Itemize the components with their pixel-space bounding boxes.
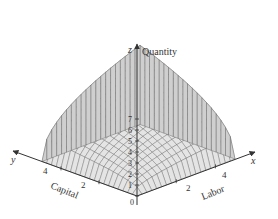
- x-tick-4: 4: [222, 170, 227, 180]
- x-tick-2: 2: [186, 183, 191, 193]
- z-tick-2: 2: [128, 170, 132, 179]
- surface-plot: 01234567 z Quantity y x 4 2 2 4 Capital …: [0, 0, 278, 219]
- y-tick-4: 4: [43, 166, 48, 176]
- z-tick-1: 1: [128, 181, 132, 190]
- surface-mesh: [42, 45, 235, 196]
- z-tick-0: 0: [130, 198, 134, 207]
- z-tick-4: 4: [128, 148, 132, 157]
- x-axis-letter: x: [250, 155, 256, 166]
- y-axis-label: Capital: [49, 180, 80, 201]
- y-axis-letter: y: [10, 154, 16, 165]
- z-tick-3: 3: [128, 159, 132, 168]
- z-axis-label: Quantity: [142, 46, 177, 57]
- x-axis-label: Labor: [200, 182, 227, 201]
- y-tick-2: 2: [81, 180, 86, 190]
- z-axis-letter: z: [127, 44, 132, 55]
- z-tick-6: 6: [128, 126, 132, 135]
- z-tick-7: 7: [128, 115, 132, 124]
- z-tick-5: 5: [128, 137, 132, 146]
